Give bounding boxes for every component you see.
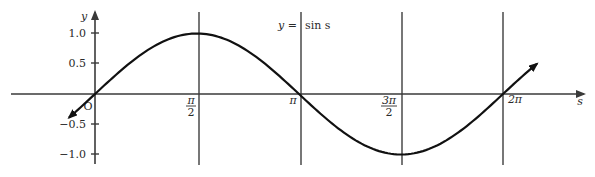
x-axis-label: s (577, 95, 583, 108)
pi-half-denominator: 2 (188, 106, 195, 119)
three-pi-half-denominator: 2 (386, 106, 393, 119)
x-tick-label-two-pi: 2π (507, 93, 523, 106)
equation-right: sin s (305, 19, 331, 32)
x-tick-label-pi: π (288, 94, 297, 107)
y-tick-label-1: 1.0 (69, 27, 87, 40)
sine-chart: 1.0 0.5 −0.5 −1.0 y s O π 2 π 3π 2 2π y … (0, 0, 595, 177)
y-axis-label: y (80, 10, 88, 23)
equation-left: y = (277, 19, 297, 32)
y-tick-label-neg-0.5: −0.5 (59, 118, 86, 131)
y-tick-label-0.5: 0.5 (69, 57, 87, 70)
x-tick-three-pi-half: 3π 2 (381, 94, 397, 119)
x-tick-pi-half: π 2 (186, 94, 196, 119)
vertical-gridlines (199, 12, 503, 165)
y-tick-label-neg-1: −1.0 (59, 148, 86, 161)
